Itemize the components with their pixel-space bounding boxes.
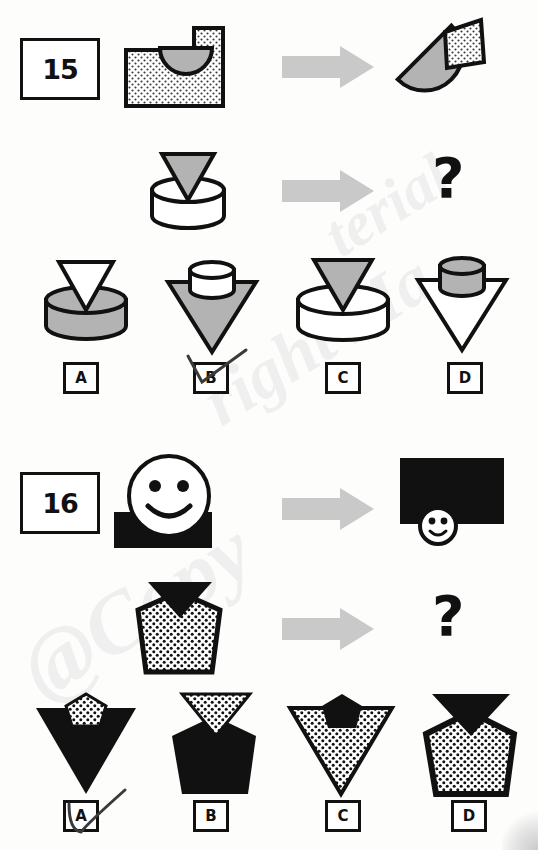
q15-prompt-arrow bbox=[282, 46, 374, 88]
q15-target-arrow bbox=[282, 170, 374, 212]
q15-option-c-label: C bbox=[337, 369, 348, 387]
q15-option-c-figure[interactable] bbox=[288, 252, 398, 350]
q16-prompt-result-figure bbox=[396, 452, 512, 552]
q15-prompt-source-figure bbox=[122, 14, 232, 114]
q16-answer-placeholder: ? bbox=[432, 588, 464, 644]
q15-option-b-figure[interactable] bbox=[160, 256, 264, 356]
q16-option-b-figure[interactable] bbox=[158, 690, 270, 798]
q16-option-d-label: D bbox=[463, 807, 475, 825]
q16-prompt-source-figure bbox=[112, 450, 230, 552]
q15-option-a-label: A bbox=[75, 369, 87, 387]
q16-option-c-figure[interactable] bbox=[286, 690, 398, 798]
q15-option-b-label: B bbox=[205, 369, 216, 387]
q16-option-b-label: B bbox=[205, 807, 216, 825]
q16-option-a-figure[interactable] bbox=[30, 690, 142, 798]
q15-target-source-figure bbox=[140, 146, 236, 232]
q16-option-b-box[interactable]: B bbox=[193, 800, 229, 832]
q16-option-a-label: A bbox=[75, 807, 87, 825]
q16-option-d-box[interactable]: D bbox=[451, 800, 487, 832]
question-number-box-16: 16 bbox=[20, 472, 100, 534]
q16-option-a-box[interactable]: A bbox=[63, 800, 99, 832]
q16-target-arrow bbox=[282, 608, 374, 650]
q15-option-d-box[interactable]: D bbox=[447, 362, 483, 394]
q16-prompt-arrow bbox=[282, 488, 374, 530]
q16-option-d-figure[interactable] bbox=[414, 690, 528, 800]
q16-option-c-label: C bbox=[337, 807, 348, 825]
q15-option-a-figure[interactable] bbox=[34, 256, 138, 348]
q15-option-c-box[interactable]: C bbox=[325, 362, 361, 394]
q15-option-d-figure[interactable] bbox=[410, 254, 514, 354]
page-corner-smudge bbox=[502, 810, 538, 850]
q16-option-c-box[interactable]: C bbox=[325, 800, 361, 832]
q15-option-b-box[interactable]: B bbox=[193, 362, 229, 394]
question-number-label: 15 bbox=[42, 54, 78, 85]
q15-option-a-box[interactable]: A bbox=[63, 362, 99, 394]
worksheet-page: @Copy right Ma terial 15 bbox=[0, 0, 538, 850]
q15-prompt-result-figure bbox=[388, 12, 498, 114]
q15-answer-placeholder: ? bbox=[432, 150, 464, 206]
question-number-label: 16 bbox=[42, 488, 78, 519]
q15-option-d-label: D bbox=[459, 369, 471, 387]
q16-target-source-figure bbox=[124, 580, 234, 678]
question-number-box-15: 15 bbox=[20, 38, 100, 100]
